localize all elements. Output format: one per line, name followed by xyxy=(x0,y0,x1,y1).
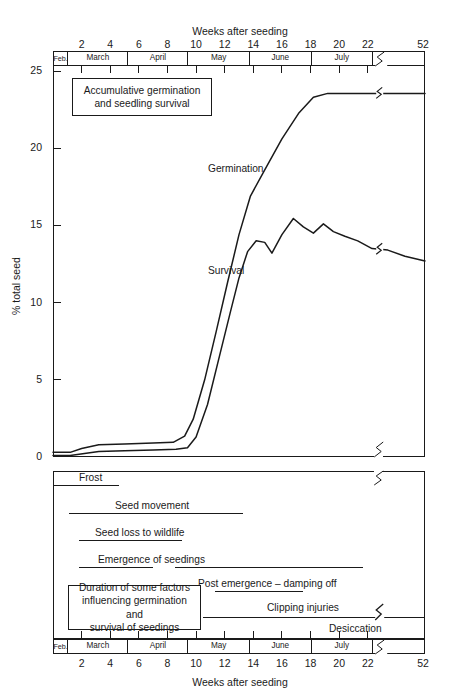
duration-factor-label: Seed loss to wildlife xyxy=(95,527,184,538)
week-tick-label: 6 xyxy=(126,657,152,669)
duration-factor-bar xyxy=(215,591,304,592)
duration-factor-bar xyxy=(53,485,119,486)
y-tick-label: 25 xyxy=(14,64,42,76)
bottom-week-tick-labels: 24681012141618202252 xyxy=(0,657,458,669)
month-band-axis-break xyxy=(54,640,426,655)
week-tick-label: 12 xyxy=(212,657,238,669)
note-line-1: Accumulative germination xyxy=(84,84,201,97)
y-tick-label: 20 xyxy=(14,141,42,153)
week-tick-label: 2 xyxy=(69,38,95,50)
duration-factor-label: Emergence of seedings xyxy=(98,554,205,565)
week-tick-label: 4 xyxy=(97,657,123,669)
week-tick-label: 16 xyxy=(269,657,295,669)
y-tick-label: 5 xyxy=(14,373,42,385)
week-tick-label: 22 xyxy=(355,657,381,669)
week-tick-label-break: 52 xyxy=(410,657,436,669)
duration-factor-label: Post emergence – damping off xyxy=(198,578,337,589)
week-tick-label: 4 xyxy=(97,38,123,50)
bottom-note-line-3: survival of seedings xyxy=(90,621,179,634)
duration-factor-bar xyxy=(203,617,425,618)
duration-factor-label: Seed movement xyxy=(115,500,189,511)
week-tick-label: 8 xyxy=(154,657,180,669)
duration-factor-bar xyxy=(175,567,364,568)
week-tick-label: 20 xyxy=(326,38,352,50)
top-axis-title: Weeks after seeding xyxy=(155,25,325,37)
week-tick-label: 14 xyxy=(240,657,266,669)
y-axis-tick-labels: 2520151050 xyxy=(0,0,52,698)
y-axis-title: % total seed xyxy=(10,246,22,326)
accumulative-germination-note: Accumulative germination and seedling su… xyxy=(72,78,212,116)
top-month-band: Feb.MarchAprilMayJuneJuly xyxy=(53,51,425,66)
week-tick-label: 10 xyxy=(183,38,209,50)
month-band-axis-break xyxy=(54,52,426,67)
week-tick-label: 20 xyxy=(326,657,352,669)
bottom-axis-title: Weeks after seeding xyxy=(155,676,325,688)
survival-curve-label: Survival xyxy=(208,265,244,276)
week-tick-label: 18 xyxy=(298,657,324,669)
duration-factor-label: Desiccation xyxy=(329,623,382,634)
top-week-tick-labels: 24681012141618202252 xyxy=(0,38,458,50)
bottom-note-line-2: influencing germination and xyxy=(75,594,194,620)
note-line-2: and seedling survival xyxy=(94,97,189,110)
week-tick-label: 14 xyxy=(240,38,266,50)
week-tick-label: 6 xyxy=(126,38,152,50)
week-tick-label: 12 xyxy=(212,38,238,50)
germination-curve-label: Germination xyxy=(208,163,264,174)
week-tick-label: 22 xyxy=(355,38,381,50)
germination-survival-plot xyxy=(53,66,425,457)
y-tick-label: 0 xyxy=(14,450,42,462)
cropped-caption-remnant xyxy=(18,0,348,7)
duration-factor-bar xyxy=(79,540,182,541)
duration-factor-label: Clipping injuries xyxy=(267,602,339,613)
duration-factor-bar xyxy=(69,513,244,514)
week-tick-label: 10 xyxy=(183,657,209,669)
series-survival-line xyxy=(53,218,425,455)
duration-factor-bar xyxy=(79,567,153,568)
week-tick-label-break: 52 xyxy=(410,38,436,50)
week-tick-label: 2 xyxy=(69,657,95,669)
germination-survival-svg xyxy=(53,66,425,457)
duration-factors-note: Duration of some factors influencing ger… xyxy=(68,585,201,630)
week-tick-label: 8 xyxy=(154,38,180,50)
bottom-note-line-1: Duration of some factors xyxy=(79,581,190,594)
week-tick-label: 16 xyxy=(269,38,295,50)
week-tick-label: 18 xyxy=(298,38,324,50)
y-tick-label: 15 xyxy=(14,218,42,230)
bottom-month-band: Feb.MarchAprilMayJuneJuly xyxy=(53,639,425,654)
duration-factor-label: Frost xyxy=(79,472,102,483)
